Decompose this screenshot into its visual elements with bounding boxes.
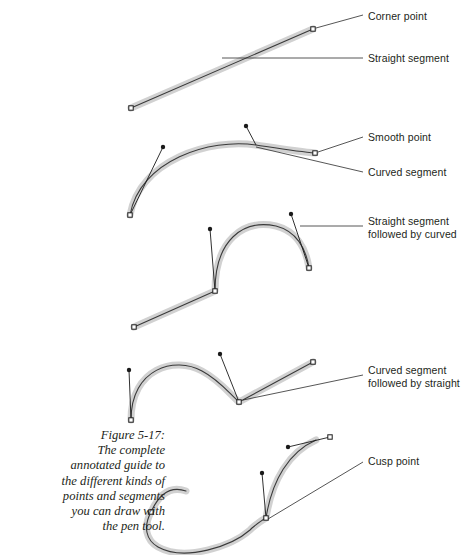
path-straight-anchor-corner-1[interactable] <box>311 27 315 31</box>
leader-lines-layer <box>222 15 363 519</box>
path-straight-then-curved-anchor-smooth-2[interactable] <box>307 266 311 270</box>
path-curved-anchor-smooth-0[interactable] <box>128 213 132 217</box>
path-straight-then-curved-handle-dot-0[interactable] <box>208 227 212 231</box>
path-straight-then-curved-handle-line-1[interactable] <box>291 214 309 268</box>
path-straight-then-curved-halo <box>134 225 309 327</box>
path-straight-then-curved-handle-dot-1[interactable] <box>289 212 293 216</box>
path-straight-anchor-corner-0[interactable] <box>129 106 133 110</box>
path-curved-then-straight-anchor-smooth-0[interactable] <box>129 418 133 422</box>
leader-smooth-point <box>318 137 363 152</box>
path-curved-handle-line-0[interactable] <box>130 147 163 215</box>
annotation-label-straight-then-curved: Straight segment followed by curved <box>368 215 457 241</box>
path-straight-then-curved-anchor-cusp-1[interactable] <box>213 289 217 293</box>
path-curved-then-straight-anchor-cusp-1[interactable] <box>237 400 241 404</box>
path-curved-handle-dot-0[interactable] <box>161 145 165 149</box>
leader-corner-point <box>316 15 363 28</box>
annotation-label-smooth-point: Smooth point <box>368 131 431 144</box>
annotation-label-cusp-point: Cusp point <box>368 455 419 468</box>
figure-caption: Figure 5-17: The complete annotated guid… <box>10 428 165 534</box>
path-cusp-anchor-cusp-1[interactable] <box>264 516 268 520</box>
path-curved-then-straight-handle-dot-1[interactable] <box>218 352 222 356</box>
path-straight-then-curved-anchor-corner-0[interactable] <box>132 325 136 329</box>
path-cusp-halo <box>147 440 316 553</box>
path-curved-then-straight-anchor-corner-2[interactable] <box>311 360 315 364</box>
path-cusp-handle-dot-0[interactable] <box>260 471 264 475</box>
annotation-label-straight-segment: Straight segment <box>368 52 449 65</box>
annotation-label-corner-point: Corner point <box>368 10 427 23</box>
path-cusp-handle-dot-1[interactable] <box>286 445 290 449</box>
path-curved-then-straight-handle-dot-0[interactable] <box>127 368 131 372</box>
annotation-label-curved-then-straight: Curved segment followed by straight <box>368 364 460 390</box>
path-straight-stroke[interactable] <box>131 29 313 108</box>
pen-tool-figure: Corner pointStraight segmentSmooth point… <box>0 0 473 555</box>
annotation-label-curved-segment: Curved segment <box>368 166 446 179</box>
path-curved-handle-dot-1[interactable] <box>244 124 248 128</box>
path-cusp-anchor-smooth-2[interactable] <box>328 435 332 439</box>
path-curved-anchor-smooth-1[interactable] <box>313 151 317 155</box>
